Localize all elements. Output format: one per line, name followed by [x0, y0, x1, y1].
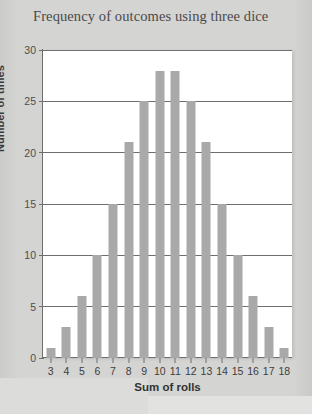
x-tick-mark — [128, 358, 129, 363]
bar — [171, 71, 180, 358]
page-background: Frequency of outcomes using three dice 0… — [0, 0, 312, 414]
x-tick-label: 11 — [170, 365, 181, 377]
bar — [124, 142, 133, 358]
x-tick-mark — [253, 358, 254, 363]
y-tick-label: 20 — [24, 147, 36, 159]
bar — [46, 348, 55, 358]
x-tick-label: 3 — [48, 365, 54, 377]
x-tick-label: 6 — [95, 365, 101, 377]
bar-group: 13 — [199, 50, 215, 358]
bar — [109, 204, 118, 358]
x-tick-mark — [190, 358, 191, 363]
y-axis-label: Number of times — [0, 65, 6, 152]
y-tick-label: 15 — [24, 198, 36, 210]
x-tick-mark — [50, 358, 51, 363]
x-tick-mark — [221, 358, 222, 363]
x-tick-mark — [206, 358, 207, 363]
bar-group: 17 — [261, 50, 277, 358]
bar-group: 5 — [74, 50, 90, 358]
bar-group: 11 — [168, 50, 184, 358]
bar-group: 15 — [230, 50, 246, 358]
bar-series: 3456789101112131415161718 — [43, 50, 292, 358]
x-tick-label: 5 — [79, 365, 85, 377]
x-tick-mark — [284, 358, 285, 363]
y-tick-label: 25 — [24, 95, 36, 107]
x-tick-mark — [66, 358, 67, 363]
x-tick-label: 9 — [141, 365, 147, 377]
bar-group: 16 — [245, 50, 261, 358]
bar-group: 18 — [276, 50, 292, 358]
bar-group: 6 — [90, 50, 106, 358]
bar — [155, 71, 164, 358]
bar — [249, 296, 258, 358]
x-tick-label: 12 — [185, 365, 197, 377]
x-tick-label: 4 — [63, 365, 69, 377]
bar-group: 3 — [43, 50, 59, 358]
x-tick-label: 16 — [247, 365, 259, 377]
x-tick-label: 10 — [154, 365, 166, 377]
bar — [264, 327, 273, 358]
bar — [217, 204, 226, 358]
y-tick-label: 30 — [24, 44, 36, 56]
bar-group: 12 — [183, 50, 199, 358]
bar — [202, 142, 211, 358]
bar-group: 14 — [214, 50, 230, 358]
bar-group: 7 — [105, 50, 121, 358]
chart-title: Frequency of outcomes using three dice — [33, 8, 303, 25]
bar — [233, 255, 242, 358]
x-tick-label: 7 — [110, 365, 116, 377]
x-tick-mark — [113, 358, 114, 363]
y-tick-label: 0 — [30, 352, 36, 364]
x-tick-label: 17 — [263, 365, 275, 377]
x-tick-label: 8 — [126, 365, 132, 377]
x-tick-label: 18 — [278, 365, 290, 377]
bar-group: 4 — [59, 50, 75, 358]
bar — [140, 101, 149, 358]
bar — [280, 348, 289, 358]
x-tick-mark — [97, 358, 98, 363]
x-tick-label: 13 — [201, 365, 213, 377]
bar-group: 10 — [152, 50, 168, 358]
bar — [77, 296, 86, 358]
x-tick-mark — [159, 358, 160, 363]
x-tick-mark — [268, 358, 269, 363]
bar-group: 8 — [121, 50, 137, 358]
page-bottom-highlight — [148, 396, 312, 414]
bar — [62, 327, 71, 358]
x-tick-label: 14 — [216, 365, 228, 377]
x-tick-mark — [144, 358, 145, 363]
x-tick-mark — [175, 358, 176, 363]
bar — [93, 255, 102, 358]
bar-group: 9 — [136, 50, 152, 358]
x-axis-label: Sum of rolls — [43, 381, 292, 393]
y-tick-label: 10 — [24, 249, 36, 261]
bar — [186, 101, 195, 358]
x-tick-mark — [81, 358, 82, 363]
x-tick-mark — [237, 358, 238, 363]
x-tick-label: 15 — [232, 365, 244, 377]
chart-plot: 051015202530 3456789101112131415161718 — [43, 50, 292, 358]
y-tick-label: 5 — [30, 301, 36, 313]
